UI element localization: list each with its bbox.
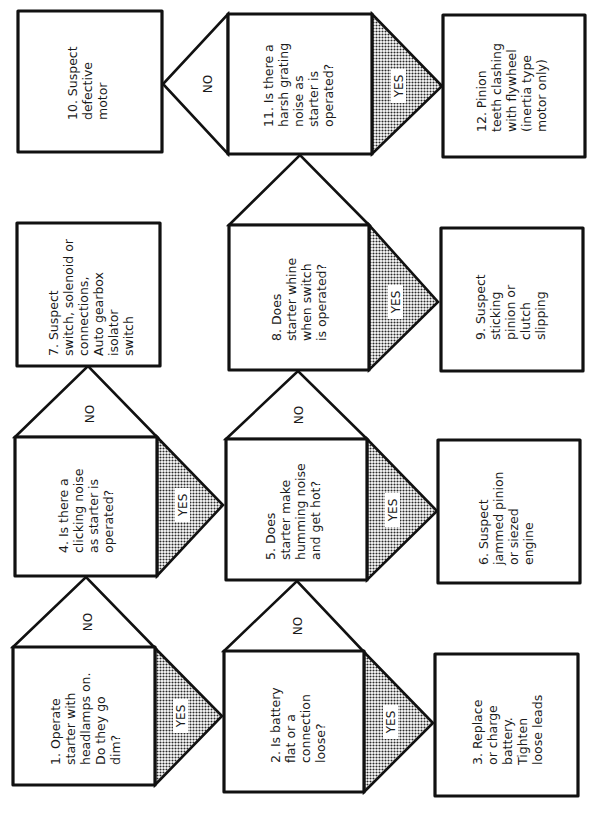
yes-label-1-to-2: YES <box>173 699 188 733</box>
svg-text:and get hot?: and get hot? <box>308 481 323 560</box>
svg-text:switch, solenoid or: switch, solenoid or <box>61 238 76 356</box>
svg-text:harsh grating: harsh grating <box>276 43 291 127</box>
no-arrow-11-to-10 <box>163 14 228 154</box>
svg-text:starter is: starter is <box>306 71 321 127</box>
svg-text:defective: defective <box>80 62 95 120</box>
no-label-4-to-7: NO <box>83 405 97 423</box>
svg-text:YES: YES <box>384 711 398 735</box>
yes-arrow-1-to-2 <box>155 648 222 785</box>
svg-text:humming noise: humming noise <box>293 463 308 560</box>
svg-text:3. Replace: 3. Replace <box>470 699 485 765</box>
svg-text:clutch: clutch <box>518 302 533 340</box>
svg-text:clicking noise: clicking noise <box>71 468 86 553</box>
svg-text:operated?: operated? <box>101 490 116 553</box>
no-arrow-5-to-8 <box>226 371 367 439</box>
svg-text:sticking: sticking <box>488 292 503 340</box>
no-label-11-to-10: NO <box>201 75 215 93</box>
yes-arrow-2-to-3 <box>364 652 433 792</box>
svg-text:10. Suspect: 10. Suspect <box>65 46 80 120</box>
yes-arrow-11-to-12 <box>372 14 442 154</box>
yes-arrow-5-to-6 <box>367 439 437 580</box>
yes-label-2-to-3: YES <box>383 705 398 739</box>
svg-text:Do they go: Do they go <box>93 696 108 765</box>
svg-text:7. Suspect: 7. Suspect <box>46 290 61 356</box>
svg-text:motor: motor <box>95 82 110 120</box>
svg-text:dim?: dim? <box>108 735 123 765</box>
svg-text:operated?: operated? <box>321 64 336 127</box>
no-arrow-2-to-5 <box>224 581 364 652</box>
svg-text:loose leads: loose leads <box>530 695 545 765</box>
svg-text:starter whine: starter whine <box>284 258 299 341</box>
svg-text:pinion or: pinion or <box>503 284 518 340</box>
svg-text:6. Suspect: 6. Suspect <box>476 499 491 565</box>
svg-text:or siezed: or siezed <box>506 508 521 565</box>
svg-text:loose?: loose? <box>313 723 328 763</box>
svg-text:noise as: noise as <box>291 76 306 127</box>
svg-text:1. Operate: 1. Operate <box>48 698 63 765</box>
svg-text:4. Is there a: 4. Is there a <box>56 478 71 553</box>
svg-text:8. Does: 8. Does <box>269 294 284 341</box>
yes-label-5-to-6: YES <box>385 493 400 527</box>
svg-text:or charge: or charge <box>485 705 500 765</box>
svg-text:as starter is: as starter is <box>86 479 101 553</box>
no-label-5-to-8: NO <box>292 406 306 424</box>
yes-arrow-8-to-9 <box>369 225 438 370</box>
yes-label-11-to-12: YES <box>391 69 406 103</box>
svg-text:YES: YES <box>389 291 403 315</box>
svg-text:YES: YES <box>176 494 190 518</box>
svg-text:connection: connection <box>298 694 313 763</box>
svg-text:12. Pinion: 12. Pinion <box>474 70 489 132</box>
svg-text:when switch: when switch <box>299 263 314 341</box>
svg-text:flat or a: flat or a <box>283 714 298 763</box>
svg-text:Auto gearbox: Auto gearbox <box>91 272 106 356</box>
svg-text:with flywheel: with flywheel <box>504 49 519 132</box>
svg-text:11. Is there a: 11. Is there a <box>261 44 276 127</box>
svg-text:battery.: battery. <box>500 717 515 765</box>
svg-text:(inertia type: (inertia type <box>519 55 534 132</box>
svg-text:motor only): motor only) <box>534 59 549 132</box>
svg-text:9. Suspect: 9. Suspect <box>473 274 488 340</box>
flowchart-canvas: NO NO NO NO NO YES YES YES YES YES YES 1… <box>0 0 595 819</box>
no-label-1-to-4: NO <box>81 613 95 631</box>
yes-label-4-to-5: YES <box>175 488 190 522</box>
svg-text:headlamps on.: headlamps on. <box>78 673 93 765</box>
svg-text:5. Does: 5. Does <box>263 513 278 560</box>
no-arrow-1-to-4 <box>13 577 155 648</box>
svg-text:YES: YES <box>174 705 188 729</box>
svg-text:YES: YES <box>386 499 400 523</box>
svg-text:teeth clashing: teeth clashing <box>489 43 504 132</box>
yes-label-8-to-9: YES <box>388 285 403 319</box>
svg-text:is operated?: is operated? <box>314 264 329 341</box>
svg-text:YES: YES <box>392 75 406 99</box>
svg-text:connections,: connections, <box>76 277 91 356</box>
arrow-8-to-11 <box>229 155 369 225</box>
svg-text:engine: engine <box>521 522 536 565</box>
svg-text:starter with: starter with <box>63 693 78 765</box>
svg-text:jammed pinion: jammed pinion <box>491 472 506 566</box>
svg-text:starter make: starter make <box>278 479 293 560</box>
no-arrow-4-to-7 <box>15 366 157 437</box>
svg-text:slipping: slipping <box>533 291 548 340</box>
svg-text:Tighten: Tighten <box>515 718 530 766</box>
svg-text:switch: switch <box>121 316 136 356</box>
no-label-2-to-5: NO <box>291 617 305 635</box>
svg-text:2. Is battery: 2. Is battery <box>268 687 283 763</box>
svg-text:isolator: isolator <box>106 309 121 356</box>
